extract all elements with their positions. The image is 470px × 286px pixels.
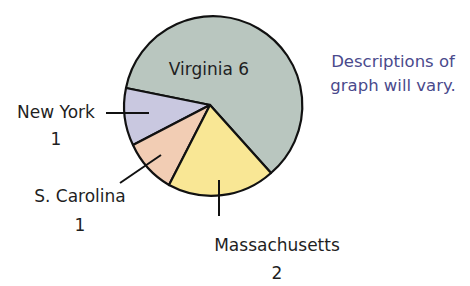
label-south-carolina: S. Carolina [34, 186, 126, 206]
label-massachusetts: Massachusetts [214, 235, 340, 255]
pie-chart: Virginia 6 New York 1 S. Carolina 1 Mass… [0, 0, 470, 286]
description-line-2: graph will vary. [318, 74, 468, 98]
label-new-york: New York [17, 102, 95, 122]
value-massachusetts: 2 [272, 263, 283, 283]
pie-slices [124, 16, 302, 196]
value-south-carolina: 1 [75, 215, 86, 235]
value-new-york: 1 [51, 129, 62, 149]
label-virginia: Virginia 6 [169, 59, 249, 79]
chart-description: Descriptions of graph will vary. [318, 50, 468, 98]
description-line-1: Descriptions of [318, 50, 468, 74]
